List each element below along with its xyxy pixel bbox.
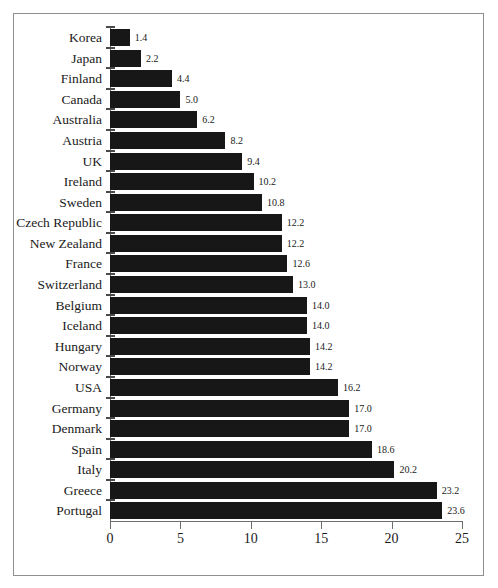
- bar: [110, 379, 338, 396]
- category-label: Australia: [53, 110, 103, 129]
- x-axis-tick-label: 5: [177, 531, 184, 547]
- category-tick: [106, 273, 115, 275]
- category-tick: [106, 211, 115, 213]
- category-tick: [106, 67, 115, 69]
- x-axis-tick: [321, 521, 322, 529]
- bar-value-label: 23.2: [442, 482, 460, 499]
- bar: [110, 317, 307, 334]
- category-tick: [106, 47, 115, 49]
- x-axis-tick: [462, 521, 463, 529]
- bar: [110, 91, 180, 108]
- category-tick: [106, 499, 115, 501]
- bar-value-label: 16.2: [343, 379, 361, 396]
- category-label: Hungary: [55, 337, 102, 356]
- bar-row: Portugal23.6: [110, 500, 462, 521]
- bar-value-label: 18.6: [377, 441, 395, 458]
- bar-row: Denmark17.0: [110, 418, 462, 439]
- bar-value-label: 12.2: [287, 235, 305, 252]
- bar-row: Spain18.6: [110, 439, 462, 460]
- bar: [110, 173, 254, 190]
- x-axis-tick: [180, 521, 181, 529]
- bar-value-label: 13.0: [298, 276, 316, 293]
- bar: [110, 482, 437, 499]
- x-axis-line: [110, 521, 463, 522]
- bar: [110, 194, 262, 211]
- x-axis-tick-label: 10: [244, 531, 258, 547]
- bar-value-label: 20.2: [399, 461, 417, 478]
- bar-row: Italy20.2: [110, 459, 462, 480]
- bar-row: Canada5.0: [110, 89, 462, 110]
- category-label: Portugal: [56, 501, 102, 520]
- bar: [110, 276, 293, 293]
- x-axis-tick: [110, 521, 111, 529]
- bar-chart-figure: Korea1.4Japan2.2Finland4.4Canada5.0Austr…: [0, 0, 498, 588]
- x-axis-tick: [392, 521, 393, 529]
- bar-row: USA16.2: [110, 377, 462, 398]
- bar-value-label: 1.4: [135, 29, 148, 46]
- category-tick: [106, 397, 115, 399]
- bar-value-label: 14.2: [315, 338, 333, 355]
- bar-value-label: 4.4: [177, 70, 190, 87]
- bar: [110, 338, 310, 355]
- category-label: Switzerland: [38, 275, 102, 294]
- category-label: Norway: [59, 357, 103, 376]
- bar: [110, 441, 372, 458]
- category-label: Germany: [52, 399, 102, 418]
- bar-row: Switzerland13.0: [110, 274, 462, 295]
- x-axis-tick-label: 25: [455, 531, 469, 547]
- category-tick: [106, 150, 115, 152]
- bar-row: Ireland10.2: [110, 171, 462, 192]
- category-tick: [106, 170, 115, 172]
- bar: [110, 111, 197, 128]
- bar: [110, 400, 349, 417]
- bar-value-label: 6.2: [202, 111, 215, 128]
- bar-row: Belgium14.0: [110, 295, 462, 316]
- bar-row: Australia6.2: [110, 109, 462, 130]
- category-tick: [106, 88, 115, 90]
- bar-value-label: 14.0: [312, 317, 330, 334]
- bar-value-label: 14.2: [315, 358, 333, 375]
- category-label: Spain: [71, 440, 102, 459]
- x-axis-tick: [251, 521, 252, 529]
- bar: [110, 214, 282, 231]
- bar: [110, 420, 349, 437]
- bar-row: Germany17.0: [110, 398, 462, 419]
- category-label: UK: [83, 152, 103, 171]
- bar: [110, 255, 287, 272]
- bar: [110, 153, 242, 170]
- category-label: New Zealand: [30, 234, 102, 253]
- category-label: Finland: [61, 69, 102, 88]
- category-tick: [106, 108, 115, 110]
- bar-row: Hungary14.2: [110, 336, 462, 357]
- bar-row: Norway14.2: [110, 356, 462, 377]
- category-tick: [106, 314, 115, 316]
- bar: [110, 50, 141, 67]
- bar-value-label: 10.2: [259, 173, 277, 190]
- category-label: Italy: [77, 460, 102, 479]
- bar: [110, 461, 394, 478]
- bar-value-label: 10.8: [267, 194, 285, 211]
- bar-value-label: 12.6: [292, 255, 310, 272]
- category-label: Austria: [62, 131, 102, 150]
- bar-row: Finland4.4: [110, 68, 462, 89]
- category-label: Greece: [64, 481, 102, 500]
- category-tick: [106, 376, 115, 378]
- category-label: Japan: [71, 49, 102, 68]
- bar-value-label: 23.6: [447, 502, 465, 519]
- category-label: Czech Republic: [16, 213, 102, 232]
- bar-row: Sweden10.8: [110, 192, 462, 213]
- category-label: Denmark: [52, 419, 102, 438]
- category-tick: [106, 479, 115, 481]
- bar: [110, 70, 172, 87]
- category-label: Canada: [62, 90, 102, 109]
- bar-value-label: 14.0: [312, 297, 330, 314]
- bar-value-label: 9.4: [247, 153, 260, 170]
- category-tick: [106, 129, 115, 131]
- x-axis-tick-label: 20: [385, 531, 399, 547]
- x-axis-tick-label: 15: [314, 531, 328, 547]
- bar: [110, 132, 225, 149]
- category-tick: [106, 232, 115, 234]
- bar-value-label: 5.0: [185, 91, 198, 108]
- category-tick: [106, 458, 115, 460]
- bar-row: Greece23.2: [110, 480, 462, 501]
